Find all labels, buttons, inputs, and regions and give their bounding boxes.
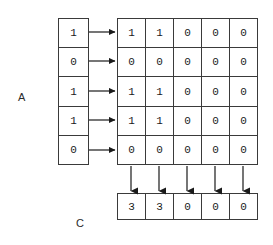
matrix-cell: 1 bbox=[118, 77, 146, 105]
matrix-cell: 0 bbox=[118, 48, 146, 76]
matrix-multiplication-diagram: A C 1 0 1 1 0 1 1 0 0 0 0 0 0 0 0 1 1 0 … bbox=[0, 0, 273, 245]
matrix-cell: 0 bbox=[174, 19, 202, 47]
output-vector-cell: 0 bbox=[230, 194, 257, 219]
matrix-grid: 1 1 0 0 0 0 0 0 0 0 1 1 0 0 0 1 1 0 0 0 bbox=[117, 18, 258, 165]
output-vector-cell: 0 bbox=[202, 194, 230, 219]
matrix-cell: 0 bbox=[230, 77, 257, 105]
matrix-cell: 1 bbox=[146, 107, 174, 135]
matrix-cell: 0 bbox=[146, 48, 174, 76]
matrix-cell: 0 bbox=[174, 107, 202, 135]
matrix-cell: 0 bbox=[118, 136, 146, 164]
matrix-row: 1 1 0 0 0 bbox=[118, 107, 257, 136]
matrix-cell: 1 bbox=[146, 19, 174, 47]
input-vector-cell: 0 bbox=[59, 48, 88, 77]
matrix-cell: 0 bbox=[202, 77, 230, 105]
matrix-cell: 0 bbox=[174, 77, 202, 105]
matrix-cell: 1 bbox=[118, 19, 146, 47]
output-vector-cell: 3 bbox=[118, 194, 146, 219]
matrix-cell: 0 bbox=[202, 136, 230, 164]
matrix-cell: 0 bbox=[174, 136, 202, 164]
matrix-cell: 1 bbox=[118, 107, 146, 135]
matrix-cell: 0 bbox=[230, 107, 257, 135]
matrix-row: 1 1 0 0 0 bbox=[118, 19, 257, 48]
matrix-cell: 0 bbox=[230, 19, 257, 47]
matrix-cell: 0 bbox=[202, 48, 230, 76]
matrix-row: 0 0 0 0 0 bbox=[118, 48, 257, 77]
matrix-cell: 0 bbox=[230, 136, 257, 164]
matrix-cell: 0 bbox=[230, 48, 257, 76]
input-vector-label: A bbox=[18, 92, 26, 103]
matrix-cell: 0 bbox=[202, 107, 230, 135]
matrix-cell: 0 bbox=[146, 136, 174, 164]
output-vector-cell: 0 bbox=[174, 194, 202, 219]
output-vector-label: C bbox=[76, 218, 84, 229]
matrix-cell: 0 bbox=[174, 48, 202, 76]
input-vector-cell: 1 bbox=[59, 19, 88, 48]
output-vector-cell: 3 bbox=[146, 194, 174, 219]
input-vector-cell: 1 bbox=[59, 107, 88, 136]
matrix-cell: 1 bbox=[146, 77, 174, 105]
matrix-row: 0 0 0 0 0 bbox=[118, 136, 257, 164]
matrix-cell: 0 bbox=[202, 19, 230, 47]
input-vector-cell: 1 bbox=[59, 77, 88, 106]
input-vector-a: 1 0 1 1 0 bbox=[58, 18, 89, 165]
matrix-row: 1 1 0 0 0 bbox=[118, 77, 257, 106]
output-vector-c: 3 3 0 0 0 bbox=[117, 193, 258, 220]
input-vector-cell: 0 bbox=[59, 136, 88, 164]
